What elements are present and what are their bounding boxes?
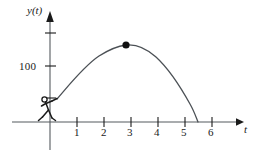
x-axis-tick-label-4: 4 — [154, 127, 160, 138]
apex-dot — [122, 41, 129, 48]
x-axis-tick-label-1: 1 — [74, 127, 80, 138]
x-axis-label: t — [244, 124, 247, 135]
y-axis-arrow-icon — [46, 11, 54, 22]
stick-figure-thrower — [39, 97, 58, 121]
x-axis-tick-label-3: 3 — [127, 127, 133, 138]
x-axis-tick-label-6: 6 — [208, 127, 214, 138]
x-axis-tick-label-2: 2 — [101, 127, 107, 138]
figure-front-foot — [52, 118, 56, 121]
figure-head — [42, 97, 47, 102]
figure-back-foot — [39, 117, 43, 121]
figure-trailing-arm — [42, 104, 46, 107]
figure-throwing-forearm — [52, 99, 57, 102]
y-axis-tick-label-100: 100 — [19, 61, 36, 72]
x-axis-tick-label-5: 5 — [181, 127, 187, 138]
trajectory-curve — [57, 45, 198, 122]
x-axis-arrow-icon — [236, 118, 244, 126]
y-axis-label: y(t) — [27, 5, 42, 16]
figure-back-leg — [43, 110, 49, 117]
projectile-motion-figure: 100 1 2 3 4 5 6 y(t) t — [0, 0, 258, 156]
